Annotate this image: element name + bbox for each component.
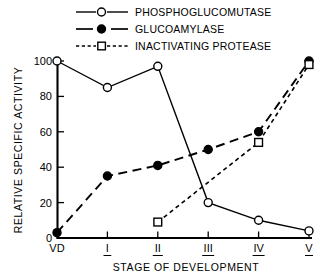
legend: PHOSPHOGLUCOMUTASE GLUCOAMYLASE INACTIVA… — [76, 6, 271, 52]
open-square-marker-icon — [98, 42, 106, 50]
y-tick-label-100: 100 — [34, 55, 52, 67]
series-line-0 — [57, 61, 309, 231]
data-point-filled-circle — [204, 145, 212, 153]
x-tick-label-iii: III — [204, 242, 213, 254]
y-tick-label-20: 20 — [40, 197, 52, 209]
series-layer — [53, 57, 313, 237]
data-point-filled-circle — [103, 172, 111, 180]
data-point-filled-circle — [255, 128, 263, 136]
x-axis-title: STAGE OF DEVELOPMENT — [113, 261, 260, 273]
filled-circle-marker-icon — [98, 25, 106, 33]
legend-label-phosphoglucomutase: PHOSPHOGLUCOMUTASE — [135, 6, 271, 18]
data-point-open-square — [305, 61, 313, 69]
plot-axes — [57, 59, 313, 239]
data-point-open-circle — [53, 57, 61, 65]
legend-item-phosphoglucomutase: PHOSPHOGLUCOMUTASE — [76, 6, 271, 18]
series-glucoamylase — [53, 57, 313, 237]
data-point-open-circle — [255, 216, 263, 224]
legend-label-glucoamylase: GLUCOAMYLASE — [135, 23, 224, 35]
y-axis-tick-labels: 100 80 60 40 20 0 — [34, 55, 52, 244]
series-phosphoglucomutase — [53, 57, 313, 235]
data-point-open-square — [154, 218, 162, 226]
open-circle-marker-icon — [98, 8, 106, 16]
x-tick-label-v: V — [305, 242, 313, 254]
x-tick-label-vd: VD — [49, 242, 64, 254]
legend-item-inactivating-protease: INACTIVATING PROTEASE — [76, 40, 271, 52]
data-point-filled-circle — [154, 161, 162, 169]
x-axis-tick-labels: VD I II III IV V — [49, 242, 313, 254]
series-line-1 — [57, 61, 309, 233]
data-point-filled-circle — [53, 229, 61, 237]
y-axis-title: RELATIVE SPECIFIC ACTIVITY — [12, 67, 24, 234]
x-tick-label-iv: IV — [253, 242, 264, 254]
data-point-open-circle — [305, 227, 313, 235]
y-tick-label-80: 80 — [40, 90, 52, 102]
line-chart: PHOSPHOGLUCOMUTASE GLUCOAMYLASE INACTIVA… — [0, 0, 320, 277]
legend-item-glucoamylase: GLUCOAMYLASE — [76, 23, 224, 35]
x-tick-label-ii: II — [155, 242, 161, 254]
figure-container: PHOSPHOGLUCOMUTASE GLUCOAMYLASE INACTIVA… — [0, 0, 320, 277]
series-inactivating-protease — [154, 61, 313, 226]
y-tick-label-60: 60 — [40, 126, 52, 138]
y-tick-label-40: 40 — [40, 161, 52, 173]
data-point-open-square — [255, 139, 263, 147]
series-line-2 — [158, 65, 309, 223]
data-point-open-circle — [154, 62, 162, 70]
x-tick-label-i: I — [106, 242, 109, 254]
data-point-open-circle — [103, 84, 111, 92]
data-point-open-circle — [204, 199, 212, 207]
legend-label-inactivating-protease: INACTIVATING PROTEASE — [135, 40, 271, 52]
